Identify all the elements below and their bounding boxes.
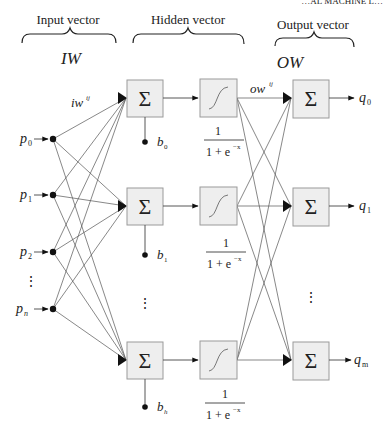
output-brace — [275, 32, 354, 47]
svg-text:1: 1 — [223, 236, 229, 250]
hidden-vector-title: Hidden vector — [151, 12, 226, 27]
input-ellipsis: ⋮ — [24, 274, 38, 289]
input-brace — [22, 28, 116, 43]
input-vector-title: Input vector — [36, 12, 100, 27]
svg-text:q: q — [359, 198, 366, 213]
svg-text:iw: iw — [71, 95, 84, 110]
svg-text:b: b — [157, 399, 164, 414]
svg-text:2: 2 — [28, 252, 32, 261]
svg-text:p: p — [15, 301, 23, 316]
hidden-ellipsis: ⋮ — [138, 296, 152, 311]
svg-text:m: m — [362, 360, 369, 369]
sigmoid-box-1 — [200, 187, 237, 225]
svg-text:−x: −x — [234, 255, 242, 263]
svg-text:ow: ow — [250, 81, 266, 96]
iw-label: IW — [60, 49, 83, 68]
svg-text:1: 1 — [367, 206, 371, 215]
svg-text:0: 0 — [367, 98, 371, 107]
sum-icon: Σ — [139, 86, 152, 111]
sum-icon: Σ — [139, 348, 152, 373]
svg-text:−x: −x — [233, 143, 241, 151]
svg-text:p: p — [19, 187, 27, 202]
hidden-unit-h: Σ b h 1 1 + e −x — [127, 341, 245, 422]
ow-label: OW — [277, 53, 305, 72]
svg-text:1: 1 — [215, 124, 221, 138]
output-unit-m: Σ q m — [293, 342, 369, 380]
svg-text:b: b — [157, 134, 164, 149]
running-header-text: …AL MACHINE L… — [301, 0, 383, 6]
svg-text:p: p — [19, 244, 27, 259]
input-pn: p n — [15, 301, 56, 318]
sum-icon: Σ — [139, 194, 152, 219]
svg-text:q: q — [359, 90, 366, 105]
svg-text:0: 0 — [28, 139, 32, 148]
sum-icon: Σ — [305, 348, 318, 373]
output-ellipsis: ⋮ — [304, 290, 318, 305]
output-vector-title: Output vector — [277, 17, 350, 32]
svg-text:0: 0 — [164, 143, 168, 151]
svg-text:ij: ij — [269, 80, 273, 88]
sigmoid-box-h — [200, 341, 237, 379]
output-weights — [237, 92, 292, 366]
sum-icon: Σ — [305, 194, 318, 219]
svg-text:−x: −x — [233, 406, 241, 414]
output-weight-label: ow ij — [250, 80, 273, 96]
svg-text:q: q — [354, 352, 361, 367]
svg-text:1: 1 — [28, 195, 32, 204]
input-weights — [53, 98, 126, 360]
hidden-arrowheads — [118, 92, 127, 366]
sigmoid-box-0 — [200, 79, 237, 117]
input-p0: p 0 — [19, 131, 56, 148]
output-unit-1: Σ q 1 — [293, 188, 371, 226]
running-header: …AL MACHINE L… — [301, 0, 383, 6]
svg-text:h: h — [164, 408, 168, 416]
neural-network-diagram: …AL MACHINE L… Input vector Hidden vecto… — [0, 0, 383, 432]
output-unit-0: Σ q 0 — [293, 80, 371, 118]
hidden-unit-0: Σ b 0 1 1 + e −x — [127, 79, 244, 159]
input-weight-label: iw ij — [71, 94, 90, 110]
sum-icon: Σ — [305, 86, 318, 111]
svg-text:1 + e: 1 + e — [207, 257, 231, 271]
svg-text:b: b — [157, 247, 164, 262]
input-p1: p 1 — [19, 187, 56, 204]
svg-text:1 + e: 1 + e — [206, 145, 230, 159]
input-layer: p 0 p 1 p 2 ⋮ p n — [15, 131, 56, 318]
hidden-unit-1: Σ b 1 1 1 + e −x — [127, 187, 246, 271]
svg-text:n: n — [24, 309, 28, 318]
input-p2: p 2 — [19, 244, 56, 261]
svg-text:1: 1 — [222, 387, 228, 401]
svg-text:1: 1 — [164, 256, 168, 264]
svg-text:1 + e: 1 + e — [206, 408, 230, 422]
svg-text:ij: ij — [86, 94, 90, 102]
hidden-brace — [133, 28, 244, 44]
svg-text:p: p — [19, 131, 27, 146]
